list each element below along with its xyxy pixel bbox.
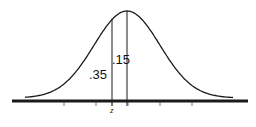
z-label: z: [109, 107, 114, 114]
center-area-label: .15: [112, 52, 130, 67]
normal-curve-diagram: .35 .15 z: [0, 0, 256, 127]
left-area-label: .35: [89, 67, 107, 82]
